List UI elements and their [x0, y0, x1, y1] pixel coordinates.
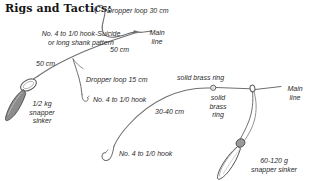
label-sinker-right-line1: 60-120 g	[244, 157, 304, 165]
rigs-and-tactics-figure: Rigs and Tactics:	[0, 0, 310, 181]
line-between-rings	[216, 88, 250, 89]
hook-icon-lower-right	[102, 146, 114, 160]
hook-icon-middle	[82, 95, 89, 102]
label-sinker-right-line2: snapper sinker	[239, 166, 309, 174]
label-trace-30-40cm: 30-40 cm	[155, 108, 184, 116]
sinker-attach-line	[34, 76, 39, 79]
label-main-line-lower-word2: line	[282, 94, 308, 102]
label-sinker-left-line1: 1/2 kg	[24, 100, 60, 108]
label-brass-ring-stacked-line1: solid	[204, 94, 232, 102]
label-sinker-left-line2: snapper	[24, 109, 60, 117]
solid-brass-ring-icon-left	[211, 85, 216, 90]
main-line-lower	[255, 87, 281, 90]
label-brass-ring-stacked-line3: ring	[204, 111, 232, 119]
label-main-line-upper-word1: Main	[144, 29, 170, 37]
label-sinker-left-line3: sinker	[24, 117, 60, 125]
label-brass-ring-top: solid brass ring	[177, 74, 224, 82]
label-hook-middle: No. 4 to 1/0 hook	[93, 96, 146, 104]
label-hook-lower-right: No. 4 to 1/0 hook	[119, 150, 172, 158]
label-brass-ring-stacked-line2: brass	[204, 103, 232, 111]
label-main-line-lower-word1: Main	[282, 85, 308, 93]
label-dropper-loop-15cm: Dropper loop 15 cm	[86, 76, 147, 84]
label-length-lower-50cm: 50 cm	[36, 60, 55, 68]
label-hook-pattern-line1: No. 4 to 1/0 hook-Suicide	[25, 30, 137, 38]
label-length-upper-50cm: 50 cm	[110, 46, 129, 54]
label-dropper-loop-30cm: Dropper loop 30 cm	[107, 7, 168, 15]
label-main-line-upper-word2: line	[144, 38, 170, 46]
sinker-dropper-line	[241, 92, 253, 139]
